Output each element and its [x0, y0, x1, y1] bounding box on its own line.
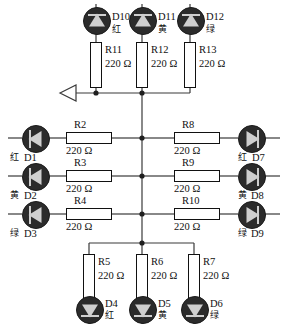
label-R10-value: 220 Ω [174, 221, 200, 232]
label-D4-color: 红 [105, 310, 114, 321]
led-cathode-bar-icon [29, 206, 31, 224]
led-D8[interactable] [238, 163, 266, 191]
label-R12-refdes: R12 [151, 44, 169, 55]
label-R4-value: 220 Ω [66, 221, 92, 232]
label-D12-color: 绿 [206, 24, 215, 35]
led-D11[interactable] [129, 7, 157, 35]
label-D1-refdes: D1 [24, 152, 37, 163]
label-R5-refdes: R5 [98, 256, 110, 267]
label-R6-refdes: R6 [151, 256, 163, 267]
label-D7-color: 红 [238, 152, 247, 163]
led-cathode-bar-icon [88, 14, 106, 16]
label-R9-refdes: R9 [182, 157, 194, 168]
led-cathode-bar-icon [81, 315, 99, 317]
label-D6-color: 绿 [210, 310, 219, 321]
label-R5-value: 220 Ω [98, 270, 124, 281]
label-R10-refdes: R10 [182, 195, 200, 206]
label-D8-color: 黄 [238, 190, 247, 201]
resistor-R8[interactable] [174, 132, 220, 144]
label-D10-refdes: D10 [112, 11, 130, 22]
label-D4-refdes: D4 [105, 298, 118, 309]
label-R9-value: 220 Ω [174, 183, 200, 194]
label-R7-refdes: R7 [203, 256, 215, 267]
label-D6-refdes: D6 [210, 298, 223, 309]
label-D10-color: 红 [112, 24, 121, 35]
led-D10[interactable] [83, 7, 111, 35]
resistor-R9[interactable] [174, 170, 220, 182]
label-R13-refdes: R13 [199, 44, 217, 55]
label-R2-value: 220 Ω [66, 145, 92, 156]
label-D9-color: 绿 [238, 228, 247, 239]
resistor-R11[interactable] [90, 42, 102, 88]
led-D6[interactable] [181, 296, 209, 324]
led-cathode-bar-icon [134, 315, 152, 317]
resistor-R2[interactable] [66, 132, 112, 144]
led-D4[interactable] [76, 296, 104, 324]
label-D12-refdes: D12 [206, 11, 224, 22]
led-cathode-bar-icon [29, 130, 31, 148]
label-R4-refdes: R4 [74, 195, 86, 206]
led-cathode-bar-icon [134, 14, 152, 16]
label-D2-refdes: D2 [24, 190, 37, 201]
led-cathode-bar-icon [257, 130, 259, 148]
resistor-R13[interactable] [184, 42, 196, 88]
circuit-diagram: D10 红 D11 黄 D12 绿 R11 220 Ω R12 220 Ω R1… [0, 0, 287, 324]
resistor-R3[interactable] [66, 170, 112, 182]
label-D1-color: 红 [10, 152, 19, 163]
label-R12-value: 220 Ω [151, 58, 177, 69]
resistor-R12[interactable] [136, 42, 148, 88]
resistor-R10[interactable] [174, 208, 220, 220]
led-cathode-bar-icon [182, 14, 200, 16]
input-arrow-icon [60, 85, 76, 101]
led-D2[interactable] [22, 163, 50, 191]
led-D7[interactable] [238, 125, 266, 153]
label-D5-refdes: D5 [158, 298, 171, 309]
resistor-R4[interactable] [66, 208, 112, 220]
label-D11-color: 黄 [158, 24, 167, 35]
label-R11-value: 220 Ω [105, 58, 131, 69]
label-R3-refdes: R3 [74, 157, 86, 168]
resistor-R6[interactable] [136, 254, 148, 300]
resistor-R5[interactable] [83, 254, 95, 300]
label-D2-color: 黄 [10, 190, 19, 201]
label-D3-color: 绿 [10, 228, 19, 239]
led-cathode-bar-icon [257, 168, 259, 186]
led-D1[interactable] [22, 125, 50, 153]
led-D3[interactable] [22, 201, 50, 229]
label-R6-value: 220 Ω [151, 270, 177, 281]
led-D5[interactable] [129, 296, 157, 324]
label-R13-value: 220 Ω [199, 58, 225, 69]
label-R8-refdes: R8 [182, 119, 194, 130]
label-R11-refdes: R11 [105, 44, 122, 55]
label-R2-refdes: R2 [74, 119, 86, 130]
led-D9[interactable] [238, 201, 266, 229]
label-R8-value: 220 Ω [174, 145, 200, 156]
led-cathode-bar-icon [257, 206, 259, 224]
label-R7-value: 220 Ω [203, 270, 229, 281]
label-D11-refdes: D11 [158, 11, 176, 22]
label-D7-refdes: D7 [252, 152, 265, 163]
label-D3-refdes: D3 [24, 228, 37, 239]
label-R3-value: 220 Ω [66, 183, 92, 194]
label-D9-refdes: D9 [251, 228, 264, 239]
led-D12[interactable] [177, 7, 205, 35]
resistor-R7[interactable] [188, 254, 200, 300]
junction-dots [93, 90, 144, 245]
label-D8-refdes: D8 [251, 190, 264, 201]
led-cathode-bar-icon [186, 315, 204, 317]
label-D5-color: 黄 [158, 310, 167, 321]
led-cathode-bar-icon [29, 168, 31, 186]
